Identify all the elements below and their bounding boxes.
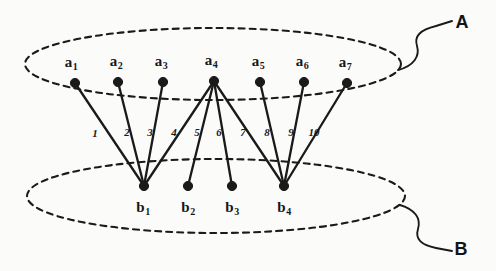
edge-a6-b4-label: 9 bbox=[288, 126, 294, 138]
bipartite-graph-figure: AB12345678910a1a2a3a4a5a6a7b1b2b3b4 bbox=[0, 0, 496, 271]
set-a-label: A bbox=[456, 12, 469, 33]
node-a2 bbox=[113, 77, 122, 86]
node-a3 bbox=[158, 77, 167, 86]
node-a6 bbox=[299, 77, 308, 86]
node-a4 bbox=[209, 76, 218, 85]
edge-a5-b4-label: 8 bbox=[264, 126, 270, 138]
node-b2-label: b2 bbox=[181, 199, 194, 216]
edge-a3-b1-label: 3 bbox=[147, 126, 153, 138]
edge-a2-b1-label: 2 bbox=[124, 126, 130, 138]
node-b1 bbox=[139, 181, 148, 190]
set-b-ellipse bbox=[27, 159, 405, 233]
set-leader-lines bbox=[398, 21, 452, 251]
node-a6-label: a6 bbox=[296, 53, 309, 70]
node-b2 bbox=[183, 181, 192, 190]
node-b3 bbox=[227, 181, 236, 190]
node-b3-label: b3 bbox=[225, 199, 238, 216]
node-a5 bbox=[255, 77, 264, 86]
node-a1-label: a1 bbox=[65, 54, 78, 71]
node-a5-label: a5 bbox=[252, 53, 265, 70]
node-b1-label: b1 bbox=[136, 199, 149, 216]
edge-a7-b4-label: 10 bbox=[309, 126, 320, 138]
edge-a4-b4-label: 7 bbox=[240, 126, 246, 138]
node-a4-label: a4 bbox=[205, 52, 218, 69]
node-b4-label: b4 bbox=[277, 199, 290, 216]
node-a7 bbox=[342, 78, 351, 87]
edge-a4-b4 bbox=[214, 81, 284, 186]
edge-a4-b1-label: 4 bbox=[171, 126, 177, 138]
set-a-leader-line bbox=[398, 21, 452, 70]
edge-a4-b2 bbox=[188, 81, 214, 186]
set-b-leader-line bbox=[400, 205, 452, 251]
edge-a4-b3-label: 6 bbox=[216, 126, 222, 138]
node-b4 bbox=[279, 181, 288, 190]
graph-edges bbox=[75, 81, 347, 186]
edge-a1-b1-label: 1 bbox=[92, 127, 98, 139]
edge-a1-b1 bbox=[75, 83, 144, 186]
graph-canvas bbox=[0, 0, 496, 271]
node-a2-label: a2 bbox=[110, 53, 123, 70]
edge-a4-b2-label: 5 bbox=[194, 126, 200, 138]
set-b-label: B bbox=[455, 239, 468, 260]
node-a3-label: a3 bbox=[155, 53, 168, 70]
node-a1 bbox=[70, 78, 79, 87]
node-a7-label: a7 bbox=[339, 54, 352, 71]
